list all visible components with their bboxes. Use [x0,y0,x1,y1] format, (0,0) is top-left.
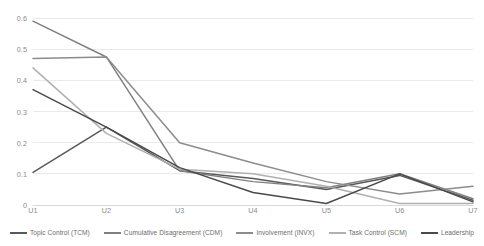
line-chart: 00.10.20.30.40.50.6 U1U2U3U4U5U6U7 Topic… [0,0,484,246]
legend-color-swatch [10,232,27,234]
legend-label: Cumulative Disagreement (CDM) [124,230,223,237]
legend-entry[interactable]: Cumulative Disagreement (CDM) [104,230,223,237]
x-tick-label: U6 [395,206,404,215]
series-lines [33,18,473,205]
x-tick-label: U4 [248,206,257,215]
legend-entry[interactable]: Leadership [421,230,474,237]
legend-color-swatch [236,232,253,234]
legend-color-swatch [421,232,438,234]
x-tick-label: U7 [468,206,477,215]
x-tick-label: U1 [28,206,37,215]
y-tick-label: 0 [23,201,27,210]
y-tick-label: 0.2 [17,138,27,147]
series-line [33,127,473,200]
legend-label: Involvement (INVX) [256,230,314,237]
x-tick-label: U2 [102,206,111,215]
legend-entry[interactable]: Topic Control (TCM) [10,230,90,237]
x-tick-label: U5 [322,206,331,215]
plot-area [33,18,473,205]
series-line [33,21,473,199]
y-tick-label: 0.6 [17,14,27,23]
x-axis: U1U2U3U4U5U6U7 [33,206,473,220]
chart-legend: Topic Control (TCM)Cumulative Disagreeme… [0,226,484,240]
y-tick-label: 0.5 [17,45,27,54]
y-axis: 00.10.20.30.40.50.6 [0,0,31,246]
series-line [33,68,473,204]
y-tick-label: 0.1 [17,169,27,178]
legend-color-swatch [329,232,346,234]
legend-label: Leadership [441,230,474,237]
legend-color-swatch [104,232,121,234]
y-tick-label: 0.3 [17,107,27,116]
x-tick-label: U3 [175,206,184,215]
legend-entry[interactable]: Involvement (INVX) [236,230,314,237]
legend-label: Task Control (SCM) [349,230,407,237]
legend-label: Topic Control (TCM) [30,230,90,237]
y-tick-label: 0.4 [17,76,27,85]
series-line [33,90,473,204]
legend-entry[interactable]: Task Control (SCM) [329,230,407,237]
